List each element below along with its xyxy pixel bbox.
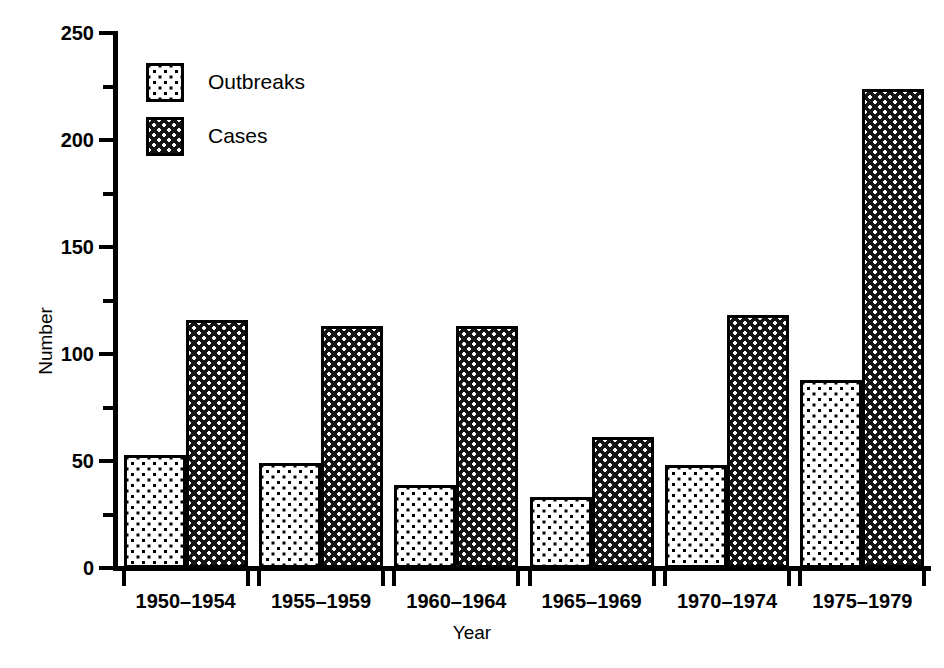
y-tick-label: 200	[36, 130, 94, 150]
x-tick-label: 1975–1979	[792, 590, 932, 613]
y-tick-minor	[103, 406, 114, 410]
x-tick	[663, 570, 667, 586]
y-tick-minor	[103, 85, 114, 89]
bar-cases-1975–1979	[862, 89, 924, 568]
x-tick	[798, 570, 802, 586]
bar-outbreaks-1955–1959	[259, 463, 321, 568]
bar-cases-1955–1959	[321, 326, 383, 568]
x-tick-label: 1950–1954	[116, 590, 256, 613]
bar-cases-1965–1969	[592, 437, 654, 568]
x-tick-label: 1970–1974	[657, 590, 797, 613]
bar-outbreaks-1960–1964	[394, 485, 456, 568]
bar-cases-1950–1954	[186, 320, 248, 568]
x-tick	[787, 570, 791, 586]
x-tick	[257, 570, 261, 586]
x-tick	[246, 570, 250, 586]
y-tick-label: 50	[36, 451, 94, 471]
legend-label-outbreaks: Outbreaks	[208, 70, 305, 94]
legend-item-cases: Cases	[146, 116, 305, 156]
x-tick	[381, 570, 385, 586]
bar-outbreaks-1965–1969	[530, 497, 592, 568]
legend-label-cases: Cases	[208, 124, 268, 148]
y-tick-minor	[103, 299, 114, 303]
chart-legend: Outbreaks Cases	[146, 62, 305, 170]
x-tick-label: 1955–1959	[251, 590, 391, 613]
x-tick-label: 1960–1964	[386, 590, 526, 613]
bar-chart-figure: 050100150200250 Number 1950–19541955–195…	[0, 0, 944, 668]
y-tick-label: 250	[36, 23, 94, 43]
y-tick-major	[99, 31, 114, 35]
x-tick	[516, 570, 520, 586]
y-tick-minor	[103, 513, 114, 517]
bar-outbreaks-1970–1974	[665, 465, 727, 568]
legend-item-outbreaks: Outbreaks	[146, 62, 305, 102]
bar-cases-1970–1974	[727, 315, 789, 568]
legend-swatch-outbreaks-icon	[146, 63, 184, 102]
x-axis-title: Year	[0, 622, 944, 644]
y-tick-major	[99, 138, 114, 142]
y-tick-minor	[103, 192, 114, 196]
x-tick	[392, 570, 396, 586]
x-tick	[528, 570, 532, 586]
bar-cases-1960–1964	[456, 326, 518, 568]
y-axis-title: Number	[35, 271, 57, 411]
x-tick	[122, 570, 126, 586]
y-tick-label: 150	[36, 237, 94, 257]
x-tick	[652, 570, 656, 586]
x-tick-label: 1965–1969	[522, 590, 662, 613]
y-tick-label: 0	[36, 558, 94, 578]
y-tick-major	[99, 352, 114, 356]
y-tick-major	[99, 459, 114, 463]
legend-swatch-cases-icon	[146, 117, 184, 156]
bar-outbreaks-1950–1954	[124, 455, 186, 568]
x-tick	[922, 570, 926, 586]
y-tick-major	[99, 566, 114, 570]
bar-outbreaks-1975–1979	[800, 380, 862, 568]
y-tick-major	[99, 245, 114, 249]
